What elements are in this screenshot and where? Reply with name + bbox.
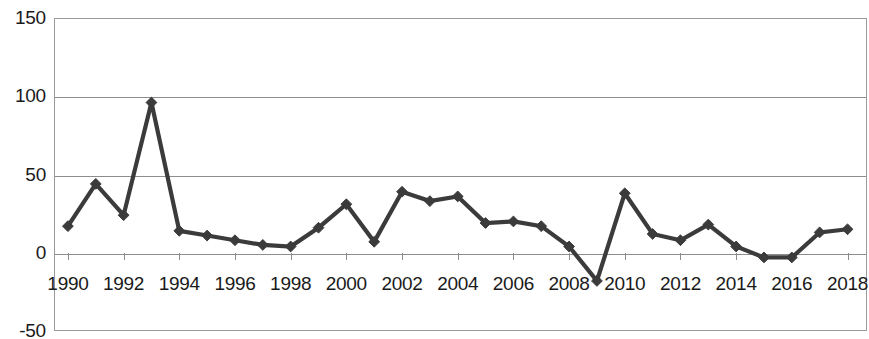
x-tick-label: 1998 <box>270 273 311 295</box>
x-tick-label: 2004 <box>437 273 478 295</box>
x-tick-mark <box>848 253 849 260</box>
x-tick-mark <box>569 253 570 260</box>
x-tick-mark <box>736 253 737 260</box>
x-tick-label: 1990 <box>47 273 88 295</box>
x-tick-mark <box>235 253 236 260</box>
x-tick-label: 2014 <box>716 273 757 295</box>
x-tick-mark <box>625 253 626 260</box>
x-tick-mark <box>68 253 69 260</box>
x-tick-label: 2012 <box>660 273 701 295</box>
x-tick-mark <box>402 253 403 260</box>
x-tick-label: 1994 <box>159 273 200 295</box>
x-tick-mark <box>792 253 793 260</box>
x-tick-mark <box>124 253 125 260</box>
x-tick-mark <box>346 253 347 260</box>
x-tick-label: 2006 <box>493 273 534 295</box>
x-tick-label: 2010 <box>604 273 645 295</box>
x-tick-mark <box>179 253 180 260</box>
x-tick-label: 1996 <box>214 273 255 295</box>
x-tick-mark <box>513 253 514 260</box>
x-tick-label: 1992 <box>103 273 144 295</box>
x-tick-label: 2018 <box>827 273 868 295</box>
x-axis-labels: 1990199219941996199820002002200420062008… <box>0 0 869 339</box>
x-tick-mark <box>458 253 459 260</box>
x-tick-label: 2016 <box>771 273 812 295</box>
x-tick-label: 2008 <box>549 273 590 295</box>
x-tick-label: 2000 <box>326 273 367 295</box>
line-chart: 150100500-50 199019921994199619982000200… <box>0 0 869 339</box>
x-tick-label: 2002 <box>381 273 422 295</box>
x-tick-mark <box>680 253 681 260</box>
x-tick-mark <box>291 253 292 260</box>
